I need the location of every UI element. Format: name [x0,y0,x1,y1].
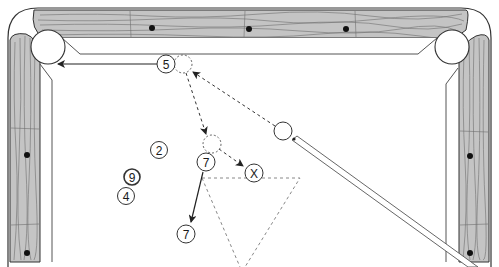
right-cushion [446,68,458,262]
right-rail [459,35,489,262]
diamond-icon [24,250,30,256]
path-ghost-7-to-x [219,149,243,166]
diamond-icon [24,152,30,158]
diamond-icon [246,26,252,32]
svg-text:X: X [250,167,258,181]
ghost-ball-at-5 [174,55,192,73]
ball-9: 9 [124,169,140,185]
top-right-pocket [435,30,469,64]
diamond-icon [467,250,473,256]
top-cushion [62,38,437,54]
rack-outline [202,178,300,267]
cue-stick [292,136,478,267]
svg-text:7: 7 [203,156,210,170]
path-7-travel [191,172,203,222]
left-rail [10,34,40,262]
diamond-icon [149,25,155,31]
ball-7-start: 7 [197,153,215,171]
path-cue-to-ghost-5 [193,72,275,126]
target-x-marker: X [245,164,263,182]
ball-5: 5 [157,55,175,73]
ball-7-end: 7 [177,225,195,243]
svg-text:4: 4 [123,190,130,204]
ball-2: 2 [151,142,168,159]
pool-table-diagram: 5 2 9 4 7 7 X [0,0,499,267]
left-cushion [40,64,52,262]
top-rail [33,10,468,39]
svg-text:2: 2 [156,144,163,158]
top-left-pocket [31,30,65,64]
svg-text:5: 5 [163,58,170,72]
diamond-icon [343,26,349,32]
path-ghost-5-to-ghost-7 [186,73,206,134]
ghost-ball-at-7 [203,135,221,153]
svg-text:7: 7 [183,228,190,242]
diamond-icon [467,153,473,159]
ball-4: 4 [118,188,135,205]
svg-text:9: 9 [129,171,136,185]
cue-ball [274,122,292,140]
